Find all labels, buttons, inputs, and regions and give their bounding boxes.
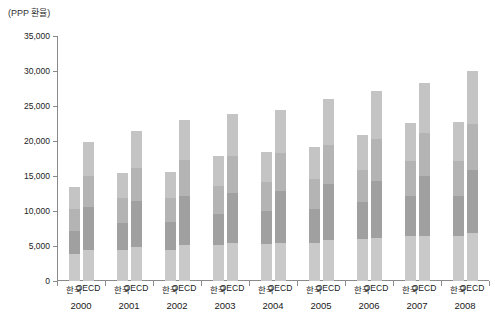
bar-segment [261,152,272,183]
y-axis-tick [53,141,57,142]
bar-segment [213,186,224,214]
ppp-exchange-rate-chart: (PPP 환율) 05,00010,00015,00020,00025,0003… [0,0,495,332]
bar-segment [357,135,368,170]
bar-2000-korea [69,187,80,282]
bar-segment [83,176,94,207]
x-axis-tick [489,281,490,286]
bar-segment [165,222,176,249]
bar-segment [453,196,464,236]
x-axis-year-label: 2003 [214,300,235,311]
bar-segment [227,243,238,281]
bar-segment [117,173,128,199]
bar-segment [371,181,382,238]
bar-segment [227,193,238,243]
bar-segment [117,198,128,223]
bar-segment [323,240,334,281]
x-axis-labels: 한국OECD2000한국OECD2001한국OECD2002한국OECD2003… [57,283,489,329]
bar-segment [419,236,430,281]
bar-segment [275,153,286,191]
bar-segment [405,123,416,161]
unit-label: (PPP 환율) [8,6,50,19]
bar-segment [275,191,286,243]
x-axis-year-label: 2002 [166,300,187,311]
y-axis-tick [53,281,57,282]
bar-segment [117,250,128,281]
bar-segment [131,201,142,247]
y-axis-tick-label: 25,000 [24,101,50,111]
bar-segment [357,202,368,239]
bar-segment [69,231,80,254]
bar-segment [467,71,478,124]
bar-2003-oecd [227,114,238,281]
y-axis-tick [53,71,57,72]
bar-2007-oecd [419,83,430,281]
bar-segment [467,124,478,170]
x-axis-category-label: OECD [412,283,437,293]
bar-segment [261,244,272,281]
bar-segment [357,170,368,202]
bar-2006-oecd [371,91,382,281]
x-axis-category-label: OECD [124,283,149,293]
bar-segment [261,211,272,244]
y-axis-tick [53,36,57,37]
bar-segment [275,110,286,153]
bars-layer [57,36,489,281]
bar-segment [405,236,416,281]
bar-segment [419,83,430,133]
bar-segment [227,114,238,156]
bar-segment [165,172,176,198]
bar-segment [179,120,190,160]
bar-segment [83,142,94,176]
x-axis-year-label: 2007 [406,300,427,311]
bar-segment [371,91,382,139]
x-axis-category-label: OECD [76,283,101,293]
bar-2002-oecd [179,120,190,281]
bar-segment [83,250,94,281]
bar-segment [179,160,190,196]
bar-segment [261,182,272,211]
bar-segment [405,161,416,196]
y-axis-tick [53,106,57,107]
bar-segment [419,176,430,236]
bar-segment [213,214,224,245]
bar-segment [467,233,478,281]
bar-2005-oecd [323,99,334,281]
bar-segment [275,243,286,281]
bar-segment [309,243,320,281]
x-axis-category-label: OECD [220,283,245,293]
bar-2002-korea [165,172,176,281]
bar-segment [467,170,478,234]
bar-segment [323,184,334,239]
y-axis-tick-label: 0 [45,276,50,286]
x-axis-category-label: OECD [268,283,293,293]
y-axis-tick-label: 15,000 [24,171,50,181]
bar-segment [69,254,80,281]
y-axis-tick-label: 20,000 [24,136,50,146]
y-axis-tick-label: 10,000 [24,206,50,216]
bar-segment [453,161,464,196]
bar-segment [131,247,142,281]
bar-segment [309,147,320,179]
x-axis-year-label: 2001 [118,300,139,311]
y-axis-tick-label: 5,000 [29,241,50,251]
y-axis-tick [53,176,57,177]
bar-2004-oecd [275,110,286,281]
bar-2001-oecd [131,131,142,282]
bar-segment [179,196,190,245]
x-axis-year-label: 2000 [70,300,91,311]
x-axis-year-label: 2005 [310,300,331,311]
x-axis-year-label: 2006 [358,300,379,311]
y-axis-tick-label: 35,000 [24,31,50,41]
bar-segment [309,179,320,209]
x-axis-year-label: 2004 [262,300,283,311]
y-axis-tick-label: 30,000 [24,66,50,76]
bar-segment [371,139,382,181]
bar-2007-korea [405,123,416,281]
bar-2000-oecd [83,142,94,281]
bar-segment [309,209,320,243]
bar-segment [69,209,80,231]
x-axis-year-label: 2008 [454,300,475,311]
bar-segment [405,196,416,236]
bar-segment [165,198,176,222]
bar-2008-korea [453,122,464,281]
